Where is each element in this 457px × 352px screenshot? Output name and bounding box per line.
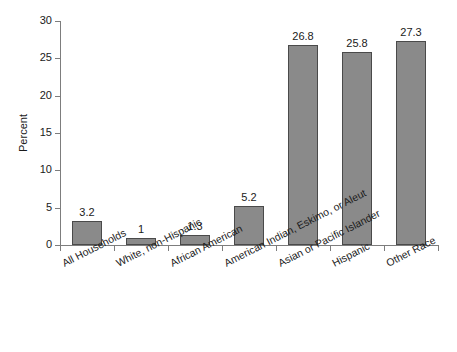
y-axis-tick [55,21,60,22]
bar-value-label: 27.3 [386,26,436,38]
y-axis-tick-label: 5 [26,202,52,213]
y-axis-tick [55,170,60,171]
x-axis-tick [60,246,61,251]
bar-chart: Percent 30 25 20 15 10 5 0 3.2 1 [0,0,457,352]
y-axis-line [60,21,61,246]
y-axis-tick-label: 0 [26,239,52,250]
y-axis-tick-label: 15 [26,127,52,138]
y-axis-tick [55,58,60,59]
y-axis-tick [55,208,60,209]
x-axis-tick [384,246,385,251]
y-axis-tick [55,133,60,134]
x-axis-tick [330,246,331,251]
y-axis-tick [55,96,60,97]
x-axis-tick [222,246,223,251]
y-axis-tick-label: 10 [26,164,52,175]
x-axis-tick [438,246,439,251]
y-axis-tick-label: 25 [26,52,52,63]
bar [396,41,426,245]
bar-value-label: 25.8 [332,37,382,49]
x-axis-tick [114,246,115,251]
bar-value-label: 26.8 [278,30,328,42]
y-axis-tick-label: 20 [26,90,52,101]
x-axis-tick [168,246,169,251]
y-axis-tick-label: 30 [26,15,52,26]
bar-value-label: 3.2 [62,206,112,218]
bar-value-label: 5.2 [224,191,274,203]
x-axis-tick [276,246,277,251]
